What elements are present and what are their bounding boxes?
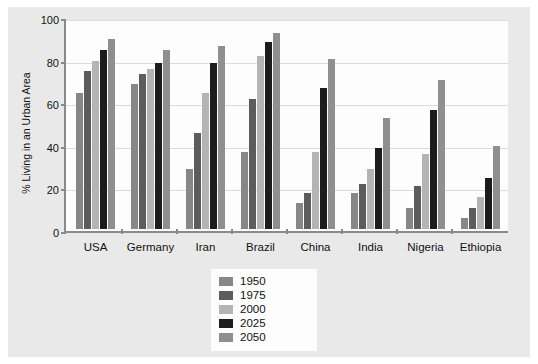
bar (249, 99, 256, 229)
bar (320, 88, 327, 229)
bar (406, 208, 413, 229)
bar (131, 84, 138, 229)
bar (461, 218, 468, 229)
y-axis-tick-label: 80 (47, 57, 59, 69)
legend-swatch (219, 291, 233, 300)
x-axis-tick-mark (121, 229, 123, 234)
legend-label: 1950 (240, 276, 266, 288)
x-axis-tick-mark (286, 229, 288, 234)
bar (155, 63, 162, 229)
bar (375, 148, 382, 229)
legend-item[interactable]: 1975 (219, 289, 309, 302)
y-axis-tick-label: 20 (47, 184, 59, 196)
bar (186, 169, 193, 229)
bar (210, 63, 217, 229)
bar (304, 193, 311, 229)
bar (469, 208, 476, 229)
legend-swatch (219, 319, 233, 328)
bar (312, 152, 319, 229)
y-axis-tick-mark (61, 189, 66, 191)
x-axis-tick-label: Ethiopia (460, 241, 502, 253)
x-axis-tick-mark (341, 229, 343, 234)
bar (92, 61, 99, 229)
bar (273, 33, 280, 229)
y-axis-tick-mark (61, 147, 66, 149)
x-axis-tick-mark (231, 229, 233, 234)
x-axis-tick-label: Germany (127, 241, 174, 253)
legend-item[interactable]: 2000 (219, 303, 309, 316)
legend-item[interactable]: 2050 (219, 331, 309, 344)
bar (485, 178, 492, 229)
bar (202, 93, 209, 229)
y-axis-label: % Living in an Urban Area (20, 72, 32, 193)
bar (328, 59, 335, 229)
bar (367, 169, 374, 229)
legend-swatch (219, 277, 233, 286)
bar-group: USA (68, 20, 123, 229)
bar-group: India (343, 20, 398, 229)
bar-group: Nigeria (398, 20, 453, 229)
x-axis-tick-mark (396, 229, 398, 234)
y-axis-tick-label: 60 (47, 99, 59, 111)
x-axis-tick-label: China (300, 241, 330, 253)
bar (139, 74, 146, 229)
bar (147, 69, 154, 229)
y-axis-tick-label: 40 (47, 142, 59, 154)
bar-group: Brazil (233, 20, 288, 229)
bar (493, 146, 500, 229)
bar (477, 197, 484, 229)
plot-area: 020406080100 USAGermanyIranBrazilChinaIn… (64, 20, 508, 233)
bar (383, 118, 390, 229)
legend-label: 2025 (240, 318, 266, 330)
bar (84, 71, 91, 229)
legend-swatch (219, 333, 233, 342)
y-axis-tick-label: 0 (53, 227, 59, 239)
bar (241, 152, 248, 229)
bar-group: Iran (178, 20, 233, 229)
legend-swatch (219, 305, 233, 314)
y-axis-tick-mark (61, 104, 66, 106)
bar (218, 46, 225, 229)
bar-group: China (288, 20, 343, 229)
x-axis-tick-label: Iran (196, 241, 216, 253)
y-axis-tick-label: 100 (41, 14, 59, 26)
bar (296, 203, 303, 229)
legend-label: 1975 (240, 290, 266, 302)
bar-group: Germany (123, 20, 178, 229)
legend-label: 2000 (240, 304, 266, 316)
legend-item[interactable]: 1950 (219, 275, 309, 288)
bar (100, 50, 107, 229)
bar-groups: USAGermanyIranBrazilChinaIndiaNigeriaEth… (68, 20, 508, 229)
x-axis-tick-label: Brazil (246, 241, 275, 253)
x-axis-tick-mark (176, 229, 178, 234)
x-axis-tick-mark (451, 229, 453, 234)
x-axis-tick-label: Nigeria (407, 241, 443, 253)
bar (351, 193, 358, 229)
y-axis-tick-mark (61, 19, 66, 21)
y-axis-tick-mark (61, 62, 66, 64)
bar (163, 50, 170, 229)
bar (76, 93, 83, 229)
bar (108, 39, 115, 229)
chart-frame: % Living in an Urban Area 020406080100 U… (8, 7, 530, 357)
bar (438, 80, 445, 229)
bar (359, 184, 366, 229)
bar (194, 133, 201, 229)
bar (422, 154, 429, 229)
bar (414, 186, 421, 229)
x-axis-tick-label: USA (84, 241, 108, 253)
legend-label: 2050 (240, 332, 266, 344)
x-axis-tick-label: India (358, 241, 383, 253)
legend-item[interactable]: 2025 (219, 317, 309, 330)
bar-group: Ethiopia (453, 20, 508, 229)
bar (265, 42, 272, 229)
bar (430, 110, 437, 229)
y-axis-tick-mark (61, 232, 66, 234)
bar (257, 56, 264, 229)
chart-legend: 19501975200020252050 (211, 269, 317, 351)
